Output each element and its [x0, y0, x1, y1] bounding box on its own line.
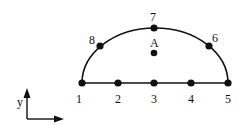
x-axis-label: x — [46, 120, 52, 125]
interior-point-a-label: A — [150, 36, 159, 50]
y-axis-label: y — [17, 95, 23, 109]
node-label-7: 7 — [150, 10, 156, 24]
node-7 — [150, 24, 157, 31]
node-label-3: 3 — [151, 92, 157, 106]
node-label-6: 6 — [212, 31, 218, 45]
interior-point-a — [151, 50, 158, 57]
semicircle-element-diagram: 12345678 A y x — [0, 0, 239, 125]
node-label-5: 5 — [225, 92, 231, 106]
node-8 — [96, 42, 103, 49]
labels-group: 12345678 — [76, 10, 231, 106]
node-5 — [224, 79, 231, 86]
y-axis-arrow-icon — [24, 88, 31, 98]
node-label-4: 4 — [188, 92, 194, 106]
node-3 — [150, 79, 157, 86]
node-label-2: 2 — [115, 92, 121, 106]
node-2 — [114, 79, 121, 86]
node-1 — [78, 79, 85, 86]
x-axis-arrow-icon — [54, 116, 64, 123]
node-label-1: 1 — [76, 92, 82, 106]
node-4 — [187, 79, 194, 86]
node-label-8: 8 — [89, 33, 95, 47]
coordinate-axes: y x — [17, 88, 64, 125]
